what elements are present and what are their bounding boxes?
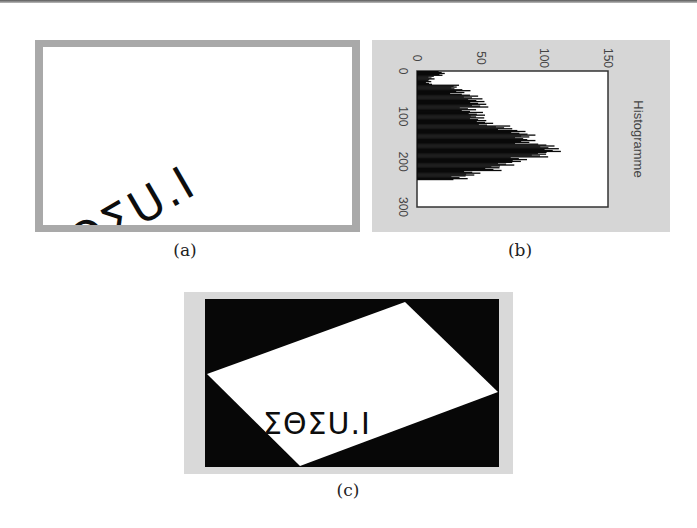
svg-text:150: 150 — [601, 48, 615, 68]
histogram-chart: 0501001500100200300 Histogramme — [372, 40, 670, 232]
caption-b: (b) — [508, 240, 532, 260]
text-line: ΣΘΣU.I — [43, 159, 202, 225]
svg-text:0: 0 — [410, 55, 424, 62]
panel-a-text: ΣΘΣU.I ΣΟΣ⊏ :Ε.Ο — [43, 79, 352, 225]
svg-text:100: 100 — [396, 106, 410, 126]
caption-c: (c) — [337, 480, 360, 500]
chart-title: Histogramme — [631, 100, 646, 177]
panel-c-corrected-image: ΣΘΣU.I ΣΟΣ⊏ :Ε.Ο — [184, 292, 513, 474]
top-border — [0, 0, 697, 3]
svg-text:200: 200 — [396, 152, 410, 172]
svg-text:300: 300 — [396, 197, 410, 217]
text-line: ΣΘΣU.I — [263, 409, 371, 439]
panel-c-text: ΣΘΣU.I ΣΟΣ⊏ :Ε.Ο — [263, 349, 371, 467]
caption-a: (a) — [173, 240, 196, 260]
svg-text:100: 100 — [537, 48, 551, 68]
panel-a-image-area: ΣΘΣU.I ΣΟΣ⊏ :Ε.Ο — [43, 47, 352, 225]
panel-c-image-area: ΣΘΣU.I ΣΟΣ⊏ :Ε.Ο — [205, 299, 499, 467]
svg-text:0: 0 — [396, 68, 410, 75]
panel-b-histogram: 0501001500100200300 Histogramme — [372, 40, 670, 232]
svg-text:50: 50 — [474, 51, 488, 65]
panel-a-rotated-text-image: ΣΘΣU.I ΣΟΣ⊏ :Ε.Ο — [35, 40, 360, 232]
